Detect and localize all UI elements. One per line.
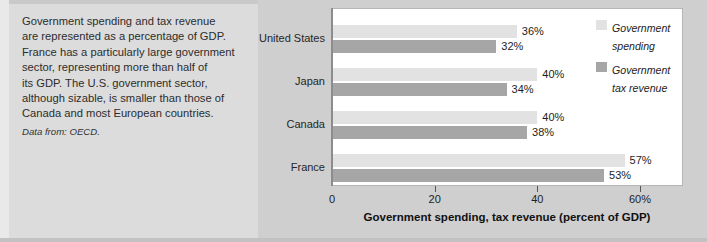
category-label: France	[255, 161, 325, 173]
caption-source-label: Data from:	[22, 126, 67, 137]
left-edge-strip	[0, 0, 9, 242]
figure-container: Government spending and tax revenue are …	[0, 0, 707, 242]
x-axis-tick	[640, 186, 641, 192]
caption-source: Data from: OECD.	[22, 124, 254, 139]
x-axis-tick-label: 0	[329, 193, 335, 205]
bar-value-spending: 40%	[542, 68, 564, 81]
x-axis-tick-label: 40	[531, 193, 543, 205]
category-label: Japan	[255, 75, 325, 87]
bar-spending	[333, 111, 537, 124]
x-axis-tick	[435, 186, 436, 192]
bar-spending	[333, 68, 537, 81]
bar-tax-revenue	[333, 83, 507, 96]
caption-source-value: OECD.	[69, 126, 99, 137]
bar-spending	[333, 154, 625, 167]
legend-item-spending: Government spending	[596, 18, 670, 54]
bar-value-tax-revenue: 32%	[501, 40, 523, 53]
bar-tax-revenue	[333, 126, 527, 139]
legend-item-tax-revenue: Government tax revenue	[596, 60, 670, 96]
x-axis-title: Government spending, tax revenue (percen…	[331, 211, 683, 223]
bar-value-tax-revenue: 34%	[512, 83, 534, 96]
legend-swatch-tax-revenue-icon	[596, 62, 607, 72]
category-label: Canada	[255, 118, 325, 130]
bar-value-spending: 57%	[630, 154, 652, 167]
bar-value-spending: 36%	[522, 25, 544, 38]
bar-value-tax-revenue: 38%	[532, 126, 554, 139]
x-axis-tick-label: 20	[429, 193, 441, 205]
category-label: United States	[255, 32, 325, 44]
figure-caption: Government spending and tax revenue are …	[22, 14, 254, 139]
bar-spending	[333, 25, 517, 38]
x-axis-tick	[537, 186, 538, 192]
bar-tax-revenue	[333, 169, 604, 182]
legend-label-tax-revenue: Government tax revenue	[612, 64, 670, 94]
x-axis-tick-label: 60%	[629, 193, 651, 205]
bar-tax-revenue	[333, 40, 496, 53]
caption-text: Government spending and tax revenue are …	[22, 14, 254, 122]
legend-label-spending: Government spending	[612, 22, 670, 52]
legend-swatch-spending-icon	[596, 20, 607, 30]
bottom-edge-strip	[0, 238, 707, 242]
bar-value-tax-revenue: 53%	[609, 169, 631, 182]
chart-legend: Government spending Government tax reven…	[596, 18, 670, 102]
category-axis-labels: United StatesJapanCanadaFrance	[253, 0, 325, 242]
bar-value-spending: 40%	[542, 111, 564, 124]
